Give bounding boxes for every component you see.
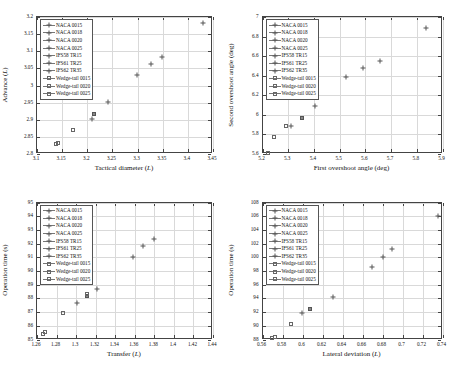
legend-item-ifs61-tr25[interactable]: IFS61 TR25 [269, 59, 316, 67]
legend-item-wedge-tail-0015[interactable]: Wedge-tail 0015 [43, 260, 90, 268]
gridline-vertical [193, 203, 194, 338]
data-point [270, 336, 274, 340]
legend-top-left[interactable]: NACA 0015NACA 0018NACA 0020NACA 0025IFS5… [40, 19, 93, 100]
legend-item-ifs61-tr25[interactable]: IFS61 TR25 [43, 59, 90, 67]
x-tick-label: 1.42 [188, 341, 197, 347]
x-tick-label: 3.15 [57, 155, 66, 161]
legend-item-wedge-tail-0020[interactable]: Wedge-tail 0020 [269, 82, 316, 90]
legend-label: IFS62 TR35 [282, 67, 308, 74]
legend-item-ifs58-tr15[interactable]: IFS58 TR15 [269, 52, 316, 60]
data-point [41, 332, 45, 336]
y-tick-label: 3 [14, 82, 33, 88]
legend-item-naca-0015[interactable]: NACA 0015 [43, 22, 90, 30]
legend-item-naca-0020[interactable]: NACA 0020 [269, 222, 316, 230]
y-tick-label: 94 [14, 212, 33, 218]
data-point [266, 151, 270, 155]
legend-item-naca-0025[interactable]: NACA 0025 [269, 44, 316, 52]
legend-item-naca-0025[interactable]: NACA 0025 [43, 44, 90, 52]
y-tick-label: 5.6 [240, 150, 259, 156]
x-tick-label: 0.68 [377, 341, 386, 347]
legend-item-naca-0015[interactable]: NACA 0015 [269, 22, 316, 30]
legend-item-wedge-tail-0015[interactable]: Wedge-tail 0015 [269, 260, 316, 268]
x-tick [96, 335, 97, 338]
legend-item-naca-0018[interactable]: NACA 0018 [43, 29, 90, 37]
x-tick-label: 1.36 [129, 341, 138, 347]
y-tick-label: 3.05 [14, 64, 33, 70]
legend-item-naca-0018[interactable]: NACA 0018 [43, 215, 90, 223]
data-point [159, 55, 164, 60]
legend-item-naca-0025[interactable]: NACA 0025 [269, 230, 316, 238]
data-point [130, 255, 135, 260]
legend-item-wedge-tail-0020[interactable]: Wedge-tail 0020 [43, 268, 90, 276]
legend-item-naca-0020[interactable]: NACA 0020 [43, 222, 90, 230]
x-tick [115, 335, 116, 338]
data-point [377, 58, 382, 63]
square-marker-icon [43, 268, 55, 275]
legend-item-wedge-tail-0015[interactable]: Wedge-tail 0015 [269, 75, 316, 83]
legend-item-wedge-tail-0020[interactable]: Wedge-tail 0020 [269, 268, 316, 276]
legend-item-naca-0018[interactable]: NACA 0018 [269, 29, 316, 37]
legend-item-ifs58-tr15[interactable]: IFS58 TR15 [43, 52, 90, 60]
x-tick [323, 335, 324, 338]
legend-item-wedge-tail-0025[interactable]: Wedge-tail 0025 [43, 90, 90, 98]
legend-label: IFS61 TR25 [56, 245, 82, 252]
data-point [135, 72, 140, 77]
legend-label: Wedge-tail 0025 [56, 276, 90, 283]
legend-item-naca-0015[interactable]: NACA 0015 [269, 207, 316, 215]
y-tick-right [208, 216, 211, 217]
x-tick [87, 149, 88, 152]
legend-item-wedge-tail-0015[interactable]: Wedge-tail 0015 [43, 75, 90, 83]
panel-top-left: 3.13.153.23.253.33.353.43.452.82.852.92.… [0, 0, 226, 186]
legend-item-wedge-tail-0025[interactable]: Wedge-tail 0025 [269, 90, 316, 98]
x-tick-label: 3.2 [83, 155, 89, 161]
y-axis-title: Advance (L) [1, 67, 9, 102]
legend-item-ifs61-tr25[interactable]: IFS61 TR25 [43, 245, 90, 253]
gridline-vertical [443, 203, 444, 338]
x-tick-label: 1.44 [207, 341, 216, 347]
gridline-vertical [383, 203, 384, 338]
y-tick-label: 6.6 [240, 52, 259, 58]
figure-four-panel-scatter: 3.13.153.23.253.33.353.43.452.82.852.92.… [0, 0, 451, 371]
y-tick-label: 6 [240, 111, 259, 117]
legend-label: NACA 0025 [56, 45, 82, 52]
legend-item-wedge-tail-0025[interactable]: Wedge-tail 0025 [43, 275, 90, 283]
legend-item-naca-0015[interactable]: NACA 0015 [43, 207, 90, 215]
legend-label: Wedge-tail 0020 [56, 268, 90, 275]
legend-item-ifs62-tr35[interactable]: IFS62 TR35 [269, 253, 316, 261]
plus-marker-icon [43, 245, 55, 252]
x-tick-label: 5.5 [335, 155, 341, 161]
x-tick [365, 149, 366, 152]
legend-item-naca-0025[interactable]: NACA 0025 [43, 230, 90, 238]
x-tick [423, 335, 424, 338]
legend-label: NACA 0018 [56, 29, 82, 36]
legend-item-wedge-tail-0025[interactable]: Wedge-tail 0025 [269, 275, 316, 283]
legend-item-naca-0020[interactable]: NACA 0020 [43, 37, 90, 45]
gridline-horizontal [263, 17, 441, 18]
legend-item-ifs62-tr35[interactable]: IFS62 TR35 [269, 67, 316, 75]
legend-item-ifs61-tr25[interactable]: IFS61 TR25 [269, 245, 316, 253]
legend-item-ifs62-tr35[interactable]: IFS62 TR35 [43, 67, 90, 75]
x-tick [443, 149, 444, 152]
data-point [380, 255, 385, 260]
gridline-horizontal [263, 312, 441, 313]
y-tick-right [438, 115, 441, 116]
legend-top-right[interactable]: NACA 0015NACA 0018NACA 0020NACA 0025IFS5… [266, 19, 319, 100]
legend-item-ifs58-tr15[interactable]: IFS58 TR15 [43, 237, 90, 245]
x-tick-top [213, 203, 214, 206]
y-tick-right [208, 203, 211, 204]
legend-item-ifs62-tr35[interactable]: IFS62 TR35 [43, 253, 90, 261]
square-marker-icon [43, 90, 55, 97]
y-tick-label: 85 [14, 336, 33, 342]
y-tick-right [438, 298, 441, 299]
legend-item-ifs58-tr15[interactable]: IFS58 TR15 [269, 237, 316, 245]
x-tick [363, 335, 364, 338]
legend-item-naca-0020[interactable]: NACA 0020 [269, 37, 316, 45]
gridline-vertical [163, 17, 164, 152]
x-tick [263, 149, 264, 152]
legend-bottom-left[interactable]: NACA 0015NACA 0018NACA 0020NACA 0025IFS5… [40, 205, 93, 286]
legend-bottom-right[interactable]: NACA 0015NACA 0018NACA 0020NACA 0025IFS5… [266, 205, 319, 286]
legend-item-naca-0018[interactable]: NACA 0018 [269, 215, 316, 223]
legend-item-wedge-tail-0020[interactable]: Wedge-tail 0020 [43, 82, 90, 90]
data-point [289, 124, 294, 129]
legend-label: NACA 0015 [56, 207, 82, 214]
